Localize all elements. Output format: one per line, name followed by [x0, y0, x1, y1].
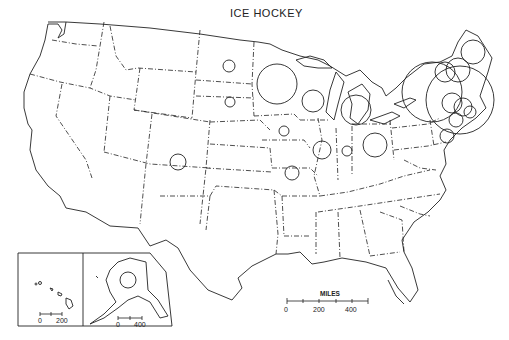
- circle-alaska: [120, 272, 136, 288]
- main-scale-bar: [287, 298, 368, 304]
- circle-ohio: [363, 133, 387, 157]
- map: ICE HOCKEY: [0, 0, 509, 340]
- us-map-svg: 0 200 0 400 MILES 0 200 400: [0, 0, 509, 340]
- scale-miles-label: MILES: [320, 290, 341, 297]
- circle-indiana: [342, 146, 352, 156]
- hawaii-scale-200: 200: [56, 317, 68, 324]
- circle-connecticut: [449, 113, 463, 127]
- inset-frame: [18, 253, 172, 326]
- circle-new-hampshire: [446, 58, 470, 82]
- circle-michigan: [341, 95, 371, 125]
- alaska-scale-0: 0: [116, 321, 120, 328]
- scale-tick-200: 200: [313, 306, 325, 313]
- scale-tick-400: 400: [345, 306, 357, 313]
- circle-minnesota: [257, 64, 297, 104]
- hawaii-scale-0: 0: [38, 317, 42, 324]
- scale-tick-0: 0: [284, 306, 288, 313]
- circle-massachusetts-a: [442, 93, 462, 113]
- state-borders: [30, 22, 446, 258]
- alaska-scale-400: 400: [134, 321, 146, 328]
- circle-south-dakota: [225, 97, 235, 107]
- circle-north-dakota: [223, 60, 235, 72]
- coastline: [24, 22, 492, 304]
- circle-illinois: [313, 141, 331, 159]
- circle-colorado: [170, 154, 186, 170]
- data-circles: [120, 40, 494, 288]
- circle-iowa: [279, 126, 289, 136]
- circle-wisconsin: [302, 90, 324, 112]
